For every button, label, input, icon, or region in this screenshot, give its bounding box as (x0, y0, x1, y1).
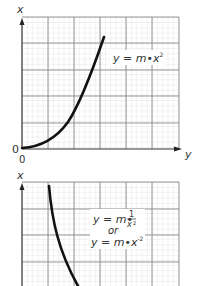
svg-text:y = m•x-2: y = m•x-2 (90, 235, 144, 249)
chart-bottom: x y = m• 1 x 2 or y = m•x-2 (16, 169, 179, 286)
svg-text:2: 2 (133, 220, 136, 226)
charts-canvas: y = m•x2 x y 0 0 x y = m• 1 x (0, 0, 197, 286)
axis-label-x: x (16, 169, 24, 182)
origin-label: 0 (12, 143, 19, 156)
chart-top: y = m•x2 x y 0 0 (12, 3, 192, 165)
svg-text:1: 1 (129, 210, 134, 219)
svg-text:x: x (126, 220, 132, 229)
axis-label-y: y (184, 148, 192, 161)
grid-minor (22, 17, 179, 149)
equation-label: y = m•x2 (112, 51, 163, 65)
origin-label-alt: 0 (19, 154, 25, 165)
svg-text:or: or (108, 225, 119, 236)
axis-label-x: x (16, 3, 24, 16)
